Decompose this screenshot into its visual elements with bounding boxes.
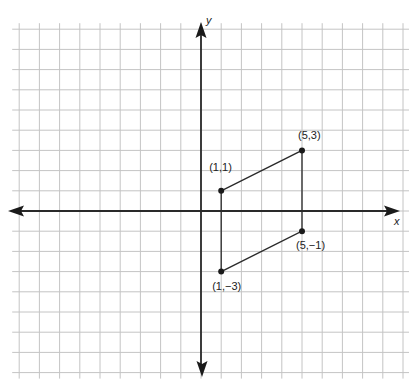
- vertex-label: (5,−1): [296, 239, 325, 251]
- coordinate-plane: x y (1,1)(5,3)(5,−1)(1,−3): [0, 0, 414, 388]
- y-axis-down-arrow-icon: [197, 361, 208, 377]
- y-axis: y: [196, 14, 214, 377]
- vertex-point: [218, 188, 224, 194]
- x-axis: x: [8, 206, 400, 228]
- vertex-label: (1,−3): [212, 280, 241, 292]
- vertex-point: [218, 269, 224, 275]
- vertex-point: [299, 228, 305, 234]
- vertex-point: [299, 147, 305, 153]
- grid: [12, 23, 409, 378]
- vertex-label: (1,1): [209, 161, 232, 173]
- vertex-label: (5,3): [298, 129, 321, 141]
- y-axis-label: y: [205, 14, 213, 26]
- x-axis-label: x: [393, 215, 400, 227]
